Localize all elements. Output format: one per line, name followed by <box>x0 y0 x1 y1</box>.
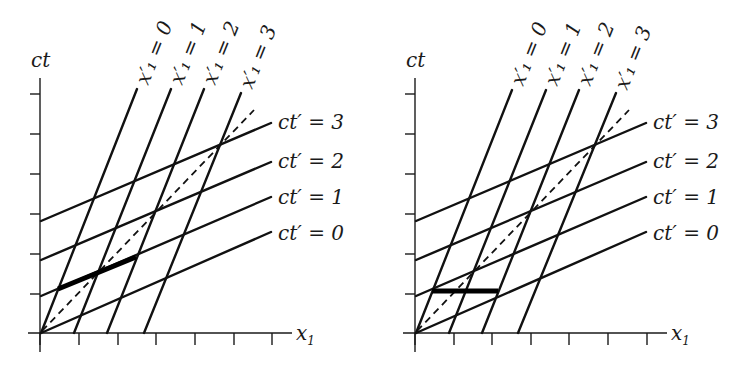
xprime-3-line <box>518 93 616 333</box>
x1-axis-label: x1 <box>296 321 315 348</box>
x1-axis-ticks <box>415 333 647 345</box>
right-diagram: ct x1 x′₁ = 0 x′₁ = 1 x′₁ = 2 x′₁ = 3 ct… <box>403 18 719 352</box>
left-diagram: ct x1 x′₁ = 0 x′₁ = 1 x′₁ = 2 x′₁ = 3 ct… <box>28 17 344 352</box>
ctprime-2-label: ct′ = 2 <box>278 149 344 173</box>
ctprime-3-line <box>416 123 646 221</box>
ctprime-1-label: ct′ = 1 <box>653 185 719 209</box>
ct-axis-label: ct <box>406 48 426 72</box>
ct-axis-label: ct <box>31 48 51 72</box>
ct-axis-ticks <box>405 94 415 294</box>
spacetime-diagrams: ct x1 x′₁ = 0 x′₁ = 1 x′₁ = 2 x′₁ = 3 ct… <box>0 0 736 366</box>
ctprime-3-label: ct′ = 3 <box>278 110 344 134</box>
ctprime-3-label: ct′ = 3 <box>653 110 719 134</box>
ct-axis-ticks <box>30 94 40 294</box>
ctprime-3-line <box>41 123 271 221</box>
ctprime-0-label: ct′ = 0 <box>278 221 344 245</box>
x1-axis-label: x1 <box>671 321 690 348</box>
ctprime-2-label: ct′ = 2 <box>653 149 719 173</box>
xprime-3-line <box>144 93 241 333</box>
ctprime-0-label: ct′ = 0 <box>653 221 719 245</box>
x1-axis-ticks <box>40 333 272 345</box>
ctprime-1-label: ct′ = 1 <box>278 185 344 209</box>
